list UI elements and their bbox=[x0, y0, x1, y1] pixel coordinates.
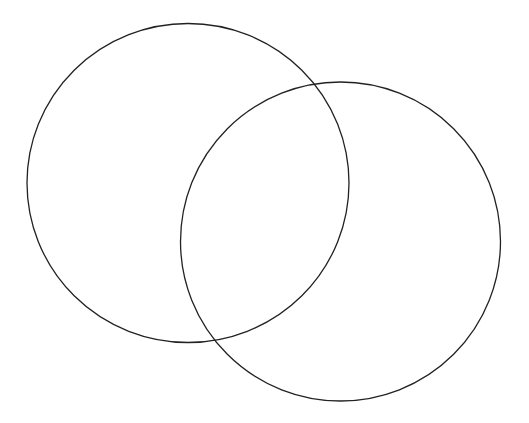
venn-circle-left bbox=[27, 24, 349, 343]
venn-diagram-canvas bbox=[0, 0, 529, 423]
venn-diagram bbox=[0, 0, 529, 423]
venn-circle-right bbox=[181, 82, 501, 401]
